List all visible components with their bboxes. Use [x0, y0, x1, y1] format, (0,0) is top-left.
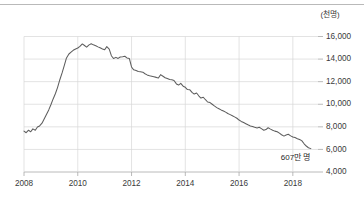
- vertical-gridlines-group: [24, 37, 293, 177]
- chart-canvas: 16,00014,00012,00010,0008,0006,0004,000 …: [0, 0, 364, 205]
- y-tick-label-16000: 16,000: [326, 32, 351, 41]
- x-tick-label-2018: 2018: [284, 179, 303, 188]
- y-axis-unit-label: (천명): [320, 9, 340, 19]
- x-axis-tick-labels: 200820102012201420162018: [15, 179, 302, 188]
- y-tick-label-12000: 12,000: [326, 77, 351, 86]
- x-tick-label-2014: 2014: [176, 179, 195, 188]
- x-tick-label-2012: 2012: [122, 179, 141, 188]
- x-tick-label-2010: 2010: [69, 179, 88, 188]
- gridlines-group: [24, 37, 323, 173]
- data-series-line: [24, 44, 311, 149]
- y-tick-label-6000: 6,000: [326, 145, 347, 154]
- x-tick-label-2016: 2016: [230, 179, 249, 188]
- chart-annotation-0: 607만 명: [281, 152, 311, 162]
- y-tick-label-10000: 10,000: [326, 99, 351, 108]
- x-tick-label-2008: 2008: [15, 179, 34, 188]
- employment-line-chart: 16,00014,00012,00010,0008,0006,0004,000 …: [0, 0, 364, 205]
- chart-annotations-group: 607만 명: [281, 152, 311, 162]
- y-axis-tick-labels: 16,00014,00012,00010,0008,0006,0004,000: [326, 32, 351, 177]
- y-tick-label-14000: 14,000: [326, 54, 351, 63]
- y-tick-label-4000: 4,000: [326, 167, 347, 176]
- y-tick-label-8000: 8,000: [326, 122, 347, 131]
